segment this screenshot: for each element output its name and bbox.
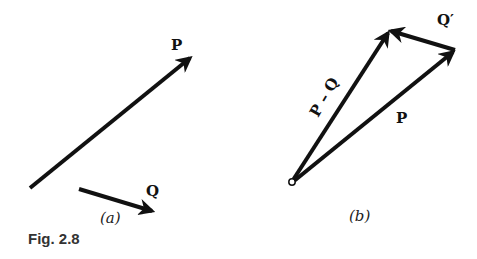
vector-p-arrow: [30, 58, 190, 188]
panel-b-label: (b): [349, 207, 370, 225]
vector-q-label: Q: [146, 182, 159, 200]
origin-point: [289, 179, 295, 185]
panel-a-label: (a): [100, 209, 121, 227]
vector-q-prime-label: Q′: [437, 11, 454, 29]
figure-caption: Fig. 2.8: [28, 230, 80, 247]
panel-a: P Q (a): [30, 36, 190, 227]
panel-b: Q′ P P – Q (b): [289, 11, 455, 225]
vector-p-label: P: [171, 36, 182, 54]
vector-q-arrow: [79, 189, 152, 211]
vector-figure: P Q (a) Fig. 2.8 Q′ P P – Q (b): [0, 0, 477, 259]
vector-p-minus-q-arrow: [293, 33, 388, 180]
vector-p-label-b: P: [396, 109, 407, 127]
vector-q-prime-arrow: [391, 31, 455, 50]
